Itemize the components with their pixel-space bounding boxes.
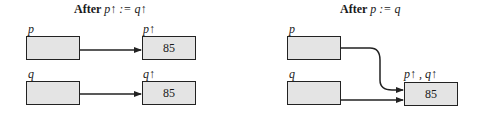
pointer-q-box [26, 81, 80, 105]
title-prefix: After [74, 2, 101, 16]
pointer-q-label: q [289, 67, 295, 82]
pointer-q-box [287, 81, 341, 105]
title-expression: p := q [370, 2, 400, 16]
pointer-q-label: q [28, 67, 34, 82]
target-q-value: 85 [142, 81, 196, 105]
pointer-p-box [287, 36, 341, 60]
pointer-p-box [26, 36, 80, 60]
target-p-value: 85 [142, 36, 196, 60]
shared-target-label: p↑ , q↑ [404, 67, 437, 82]
target-q-label: q↑ [143, 67, 155, 82]
target-p-label: p↑ [143, 22, 155, 37]
pointer-p-label: p [289, 22, 295, 37]
title-expression: p↑ := q↑ [104, 2, 146, 16]
shared-target-value: 85 [404, 82, 458, 106]
left-panel-title: After p↑ := q↑ [74, 2, 146, 17]
right-panel-title: After p := q [340, 2, 400, 17]
pointer-p-label: p [28, 22, 34, 37]
title-prefix: After [340, 2, 367, 16]
